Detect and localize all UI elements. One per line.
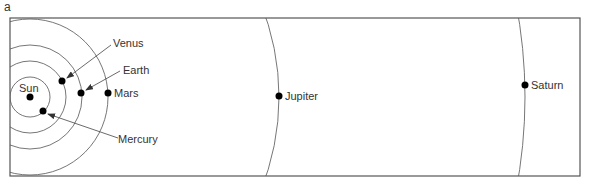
venus-dot-icon [59, 78, 66, 85]
earth-label: Earth [123, 64, 149, 76]
mercury-label: Mercury [118, 133, 158, 145]
jupiter-label: Jupiter [285, 90, 318, 102]
saturn-dot-icon [522, 82, 529, 89]
planet-mars: Mars [105, 87, 139, 99]
sun-label: Sun [19, 82, 39, 94]
orbit-earth [0, 45, 82, 149]
sun-dot-icon [27, 94, 34, 101]
saturn-label: Saturn [531, 79, 563, 91]
planet-venus: Venus [59, 37, 145, 85]
venus-label: Venus [113, 37, 144, 49]
jupiter-dot-icon [276, 93, 283, 100]
earth-dot-icon [78, 90, 85, 97]
mercury-arrow [48, 114, 118, 138]
planet-jupiter: Jupiter [276, 90, 319, 102]
sun: Sun [19, 82, 39, 101]
orbit-mars [0, 19, 108, 175]
mercury-dot-icon [40, 108, 47, 115]
orbit-jupiter [0, 0, 279, 184]
solar-system-diagram: Sun Mercury Venus Earth Mars Jupiter Sat… [0, 0, 590, 184]
planet-mercury: Mercury [40, 108, 159, 146]
mars-dot-icon [105, 90, 112, 97]
planet-saturn: Saturn [522, 79, 564, 91]
mars-label: Mars [114, 87, 139, 99]
